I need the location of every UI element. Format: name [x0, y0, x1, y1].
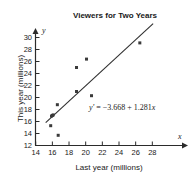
x-tick-label: 22 — [98, 148, 106, 157]
x-tick-label: 16 — [48, 148, 56, 157]
x-tick-label: 26 — [131, 148, 139, 157]
axes: y x — [33, 26, 189, 149]
x-axis-arrow — [182, 143, 188, 149]
y-tick-label: 18 — [24, 105, 32, 114]
y-axis-arrow — [33, 28, 39, 34]
regression-equation: y' = −3.668 + 1.281x — [88, 103, 156, 112]
x-tick-label: 14 — [32, 148, 40, 157]
x-tick-label: 24 — [115, 148, 123, 157]
data-points — [49, 41, 141, 136]
y-tick-label: 14 — [24, 129, 32, 138]
x-axis-symbol: x — [177, 132, 182, 141]
data-point — [85, 58, 88, 61]
data-point — [49, 124, 52, 127]
y-tick-label: 30 — [24, 33, 32, 42]
y-tick-label: 16 — [24, 117, 32, 126]
x-tick-label: 28 — [148, 148, 156, 157]
y-tick-label: 12 — [24, 141, 32, 150]
y-tick-label: 20 — [24, 93, 32, 102]
x-tick-label: 18 — [65, 148, 73, 157]
data-point — [57, 134, 60, 137]
data-point — [138, 41, 141, 44]
data-point — [75, 66, 78, 69]
plot-area: y x 1416182022242628 1214161820222426283… — [0, 0, 191, 182]
scatter-chart: Viewers for Two Years This year (million… — [0, 0, 191, 182]
y-tick-label: 22 — [24, 81, 32, 90]
data-point — [90, 94, 93, 97]
y-axis-ticks: 12141618202224262830 — [24, 33, 40, 150]
y-axis-symbol: y — [41, 26, 46, 35]
x-axis-ticks: 1416182022242628 — [32, 142, 157, 158]
y-tick-label: 26 — [24, 57, 32, 66]
y-tick-label: 28 — [24, 45, 32, 54]
x-tick-label: 20 — [82, 148, 90, 157]
data-point — [56, 103, 59, 106]
data-point — [75, 90, 78, 93]
data-point — [52, 113, 55, 116]
y-tick-label: 24 — [24, 69, 32, 78]
